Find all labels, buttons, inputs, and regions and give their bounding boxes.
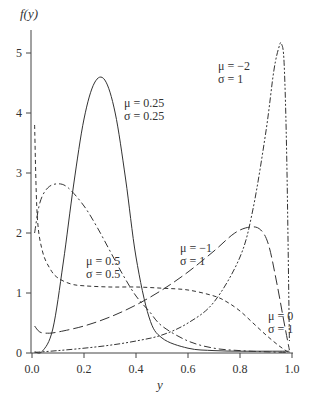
annotation-mu: μ = 0.5 [86,254,120,268]
y-tick-label: 1 [16,286,22,300]
density-chart: 0123450.00.20.40.60.81.0 μ = 0.25σ = 0.2… [0,0,312,408]
annotation-mu: μ = −2 [218,59,250,73]
y-tick-label: 5 [16,46,22,60]
annotation-sigma: σ = 1 [218,72,243,86]
annotation-mu: μ = 0.25 [124,96,164,110]
x-tick-label: 0.2 [77,362,92,376]
y-tick-label: 0 [16,346,22,360]
series-line [35,227,290,350]
y-tick-label: 3 [16,166,22,180]
y-tick-label: 2 [16,226,22,240]
series-line [35,184,290,353]
y-tick-label: 4 [16,106,22,120]
annotation-sigma: σ = 1 [180,254,205,268]
annotation-sigma: σ = 1 [268,322,293,336]
series-lines [35,42,290,353]
annotation-sigma: σ = 0.5 [86,267,120,281]
x-axis-label: y [155,377,163,392]
series-annotations: μ = 0.25σ = 0.25μ = 0.5σ = 0.5μ = 0σ = 1… [86,59,293,336]
series-line [35,125,290,353]
x-tick-label: 0.4 [129,362,144,376]
x-tick-label: 0.8 [233,362,248,376]
x-tick-label: 0.0 [25,362,40,376]
y-axis-label: f(y) [20,6,38,21]
x-tick-label: 0.6 [181,362,196,376]
x-tick-label: 1.0 [285,362,300,376]
annotation-mu: μ = −1 [180,241,212,255]
series-line [35,42,290,352]
annotation-mu: μ = 0 [268,309,293,323]
annotation-sigma: σ = 0.25 [124,109,164,123]
axes: 0123450.00.20.40.60.81.0 [16,30,300,376]
